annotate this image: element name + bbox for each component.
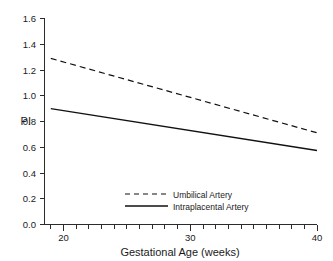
x-axis-title: Gestational Age (weeks) bbox=[120, 246, 239, 258]
pulsatility-index-line-chart: 1.6 1.4 1.2 1.0 0.8 0.6 0.4 0.2 0.0 PI bbox=[0, 0, 333, 261]
y-tick-label-3: 0.6 bbox=[23, 142, 36, 153]
legend-label-umbilical-artery: Umbilical Artery bbox=[173, 190, 233, 200]
y-axis-title: PI bbox=[21, 115, 31, 127]
y-tick-label-8: 1.6 bbox=[23, 13, 36, 24]
x-tick-label-30: 30 bbox=[185, 232, 196, 243]
legend-label-intraplacental-artery: Intraplacental Artery bbox=[173, 202, 249, 212]
x-axis-minor-ticks bbox=[51, 225, 305, 230]
x-axis-tick-labels: 20 30 40 bbox=[58, 232, 322, 243]
series-line-umbilical-artery bbox=[51, 58, 317, 132]
y-tick-label-2: 0.4 bbox=[23, 168, 36, 179]
y-axis-ticks bbox=[40, 19, 45, 225]
y-tick-label-5: 1.0 bbox=[23, 90, 36, 101]
chart-canvas: 1.6 1.4 1.2 1.0 0.8 0.6 0.4 0.2 0.0 PI bbox=[0, 0, 333, 261]
y-tick-label-0: 0.0 bbox=[23, 219, 36, 230]
y-tick-label-1: 0.2 bbox=[23, 193, 36, 204]
y-tick-label-7: 1.4 bbox=[23, 39, 36, 50]
series-line-intraplacental-artery bbox=[51, 109, 317, 151]
chart-legend: Umbilical Artery Intraplacental Artery bbox=[125, 190, 249, 212]
x-tick-label-40: 40 bbox=[312, 232, 323, 243]
x-tick-label-20: 20 bbox=[58, 232, 69, 243]
y-tick-label-6: 1.2 bbox=[23, 65, 36, 76]
